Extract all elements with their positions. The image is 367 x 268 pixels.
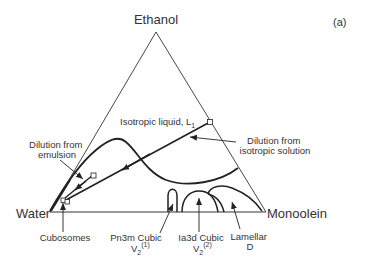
vertex-label-water: Water xyxy=(16,206,51,221)
start-marker-isotropic xyxy=(208,120,213,125)
cubosome-marker-2 xyxy=(65,200,70,205)
pn3m-region xyxy=(168,189,177,212)
start-marker-emulsion xyxy=(91,173,96,178)
ia3d-region xyxy=(182,191,218,212)
dilution-isotropic-path-arrow xyxy=(122,154,150,170)
dilution-emulsion-label: Dilution from emulsion xyxy=(29,139,85,160)
isotropic-label-text: Isotropic liquid, L xyxy=(120,116,191,127)
isotropic-liquid-label: Isotropic liquid, L1 xyxy=(120,116,195,129)
pn3m-symbol-sub: 2 xyxy=(137,249,141,256)
dilution-isotropic-label: Dilution from isotropic solution xyxy=(240,135,311,156)
panel-label: (a) xyxy=(333,16,346,28)
ia3d-symbol: V2(2) xyxy=(193,241,212,256)
arrow-lamellar xyxy=(232,202,240,229)
ia3d-symbol-sup: (2) xyxy=(203,241,212,249)
ternary-phase-diagram: Ethanol Water Monoolein (a) Isotropic li… xyxy=(0,0,367,268)
ia3d-symbol-sub: 2 xyxy=(199,249,203,256)
pn3m-symbol-sup: (1) xyxy=(141,241,150,249)
vertex-label-ethanol: Ethanol xyxy=(134,12,178,27)
cubosomes-label: Cubosomes xyxy=(40,232,91,243)
lamellar-line2: D xyxy=(247,241,254,252)
dilution-isotropic-line2: isotropic solution xyxy=(240,145,311,156)
ia3d-label: Ia3d Cubic xyxy=(178,232,224,243)
pn3m-label: Pn3m Cubic xyxy=(110,232,162,243)
dilution-emulsion-line2: emulsion xyxy=(38,149,76,160)
dilution-emulsion-path-arrow xyxy=(75,181,86,190)
vertex-label-monoolein: Monoolein xyxy=(267,206,327,221)
lamellar-label: Lamellar D xyxy=(230,231,269,252)
pn3m-symbol: V2(1) xyxy=(131,241,150,256)
arrow-dilution-isotropic xyxy=(190,137,236,142)
isotropic-label-subscript: 1 xyxy=(191,122,195,129)
arrow-pn3m xyxy=(160,204,173,233)
